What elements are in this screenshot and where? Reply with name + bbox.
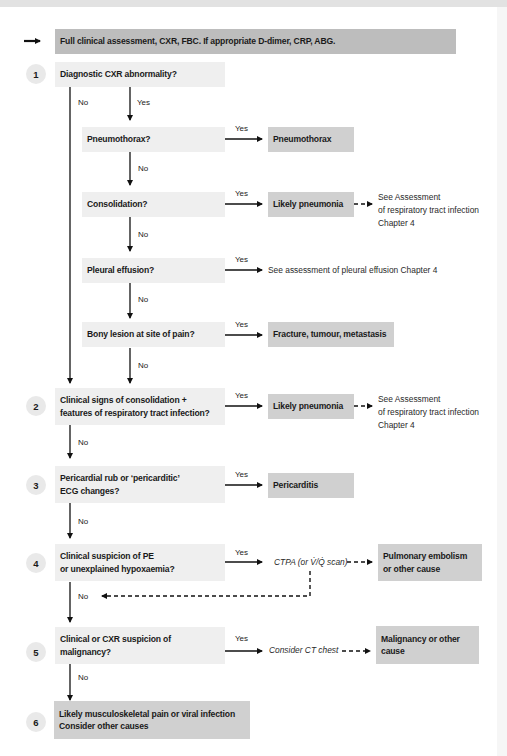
consolidation-result-box: Likely pneumonia — [268, 192, 354, 217]
consolidation-question-box: Consolidation? — [82, 192, 225, 217]
bony-lesion-no-label: No — [138, 361, 148, 371]
step-3-yes-label: Yes — [235, 470, 248, 480]
step-2-see-note: See Assessment of respiratory tract infe… — [378, 393, 479, 432]
consolidation-see-note: See Assessment of respiratory tract infe… — [378, 191, 479, 230]
step-2-yes-label: Yes — [235, 391, 248, 401]
pleural-effusion-no-label: No — [138, 295, 148, 305]
bony-lesion-question-box: Bony lesion at site of pain? — [82, 322, 225, 347]
initial-assessment-box: Full clinical assessment, CXR, FBC. If a… — [55, 29, 456, 54]
step-number-5: 5 — [26, 642, 46, 662]
step-number-2: 2 — [26, 396, 46, 416]
pneumothorax-result: Pneumothorax — [273, 133, 331, 146]
pneumothorax-yes-label: Yes — [235, 124, 248, 134]
step-3-no-label: No — [78, 517, 88, 527]
step-5-yes-label: Yes — [235, 634, 248, 644]
step-3-question-box: Pericardial rub or ‘pericarditic’ ECG ch… — [55, 466, 225, 503]
bony-lesion-yes-label: Yes — [235, 320, 248, 330]
step-6-result-line: Likely musculoskeletal pain or viral inf… — [59, 708, 235, 721]
step-4-question-box: Clinical suspicion of PE or unexplained … — [55, 544, 225, 581]
step-1-yes-label: Yes — [137, 98, 150, 108]
step-2-question-line: Clinical signs of consolidation + — [60, 394, 210, 407]
note-line: Chapter 4 — [378, 217, 479, 230]
step-4-result-line: or other cause — [383, 563, 467, 576]
step-4-ctpa-text: CTPA (or V̇/Q̇ scan) — [274, 556, 348, 569]
step-3-question-line: Pericardial rub or ‘pericarditic’ — [60, 472, 180, 485]
pleural-effusion-see-note: See assessment of pleural effusion Chapt… — [268, 264, 437, 277]
step-6-result-line: Consider other causes — [59, 720, 235, 733]
pneumothorax-result-box: Pneumothorax — [268, 127, 354, 152]
step-number-3: 3 — [26, 475, 46, 495]
note-line: Chapter 4 — [378, 419, 479, 432]
step-5-question-line: Clinical or CXR suspicion of — [60, 633, 171, 646]
step-5-no-label: No — [78, 673, 88, 683]
step-5-result-line: cause — [381, 645, 460, 658]
pleural-effusion-question: Pleural effusion? — [87, 264, 154, 277]
step-5-question-line: malignancy? — [60, 646, 171, 659]
step-number-1: 1 — [26, 64, 46, 84]
consolidation-no-label: No — [138, 230, 148, 240]
consolidation-result: Likely pneumonia — [273, 198, 343, 211]
step-4-yes-label: Yes — [235, 548, 248, 558]
step-5-question-box: Clinical or CXR suspicion of malignancy? — [55, 627, 225, 664]
pneumothorax-question: Pneumothorax? — [87, 133, 150, 146]
bony-lesion-result-box: Fracture, tumour, metastasis — [268, 322, 394, 347]
step-1-question-box: Diagnostic CXR abnormality? — [55, 62, 225, 87]
step-5-result-line: Malignancy or other — [381, 633, 460, 646]
step-4-result-box: Pulmonary embolism or other cause — [378, 544, 482, 581]
step-3-result-box: Pericarditis — [268, 473, 354, 498]
step-1-question: Diagnostic CXR abnormality? — [60, 68, 177, 81]
pleural-effusion-question-box: Pleural effusion? — [82, 258, 225, 283]
step-4-question-line: Clinical suspicion of PE — [60, 550, 175, 563]
note-line: of respiratory tract infection — [378, 204, 479, 217]
step-2-result: Likely pneumonia — [273, 400, 343, 413]
step-5-result-box: Malignancy or other cause — [376, 626, 479, 664]
pneumothorax-no-label: No — [138, 164, 148, 174]
consolidation-question: Consolidation? — [87, 198, 147, 211]
pneumothorax-question-box: Pneumothorax? — [82, 127, 225, 152]
note-line: See Assessment — [378, 393, 479, 406]
step-3-question-line: ECG changes? — [60, 485, 180, 498]
bony-lesion-question: Bony lesion at site of pain? — [87, 328, 195, 341]
step-number-6: 6 — [26, 712, 46, 732]
step-4-no-label: No — [78, 592, 88, 602]
pleural-effusion-yes-label: Yes — [235, 255, 248, 265]
step-3-result: Pericarditis — [273, 479, 318, 492]
note-line: of respiratory tract infection — [378, 406, 479, 419]
bony-lesion-result: Fracture, tumour, metastasis — [273, 328, 386, 341]
step-5-consider-ct-text: Consider CT chest — [269, 644, 338, 657]
step-number-4: 4 — [26, 553, 46, 573]
step-1-no-label: No — [78, 98, 88, 108]
step-4-result-line: Pulmonary embolism — [383, 550, 467, 563]
initial-assessment-text: Full clinical assessment, CXR, FBC. If a… — [60, 35, 335, 48]
step-2-question-line: features of respiratory tract infection? — [60, 407, 210, 420]
step-6-result-box: Likely musculoskeletal pain or viral inf… — [54, 701, 250, 739]
step-4-question-line: or unexplained hypoxaemia? — [60, 563, 175, 576]
step-2-no-label: No — [78, 438, 88, 448]
step-2-result-box: Likely pneumonia — [268, 394, 354, 419]
consolidation-yes-label: Yes — [235, 189, 248, 199]
step-2-question-box: Clinical signs of consolidation + featur… — [55, 388, 225, 425]
note-line: See Assessment — [378, 191, 479, 204]
